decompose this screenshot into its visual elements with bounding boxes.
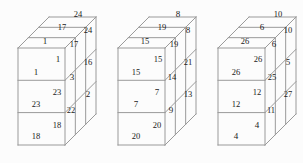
face-number: 27 (284, 90, 293, 99)
face-number: 10 (274, 10, 283, 19)
face-number: 1 (34, 68, 39, 77)
face-number: 20 (153, 121, 162, 130)
face-number: 12 (232, 100, 241, 109)
face-number: 11 (267, 106, 275, 115)
face-number: 7 (134, 100, 139, 109)
face-number: 2 (86, 90, 91, 99)
face-number: 26 (254, 55, 263, 64)
face-number: 15 (132, 68, 141, 77)
face-number: 8 (186, 26, 191, 35)
face-number: 26 (232, 68, 241, 77)
face-number: 19 (170, 40, 179, 49)
face-number: 16 (84, 58, 93, 67)
face-number: 9 (169, 106, 174, 115)
face-number: 13 (184, 90, 193, 99)
face-number: 12 (253, 88, 262, 97)
figure-1: 2417241171161323223221818 (0, 0, 101, 163)
face-number: 6 (260, 23, 265, 32)
face-number: 15 (154, 55, 163, 64)
face-number: 1 (56, 55, 61, 64)
face-number: 24 (84, 26, 93, 35)
face-number: 26 (241, 37, 250, 46)
face-number: 1 (43, 37, 48, 46)
face-number: 17 (70, 40, 79, 49)
face-number: 7 (155, 88, 160, 97)
face-number: 4 (234, 132, 239, 141)
face-number: 8 (176, 10, 181, 19)
face-number: 4 (255, 121, 260, 130)
face-number: 25 (268, 73, 277, 82)
face-number: 14 (168, 73, 177, 82)
face-number: 22 (67, 106, 76, 115)
figure-3: 1061026626526251227121144 (200, 0, 301, 163)
face-number: 19 (158, 23, 167, 32)
face-number: 18 (53, 121, 62, 130)
face-number: 20 (132, 132, 141, 141)
diagram-canvas: 2417241171161323223221818819815191521151… (0, 0, 303, 163)
face-number: 17 (58, 23, 67, 32)
face-number: 5 (286, 58, 291, 67)
face-number: 24 (74, 10, 83, 19)
face-number: 3 (70, 73, 75, 82)
face-number: 21 (184, 58, 193, 67)
face-number: 23 (53, 88, 62, 97)
face-number: 6 (272, 40, 277, 49)
face-number: 10 (284, 26, 293, 35)
figure-2: 8198151915211514713792020 (100, 0, 201, 163)
face-number: 18 (32, 132, 41, 141)
face-number: 15 (141, 37, 150, 46)
face-number: 23 (32, 100, 41, 109)
